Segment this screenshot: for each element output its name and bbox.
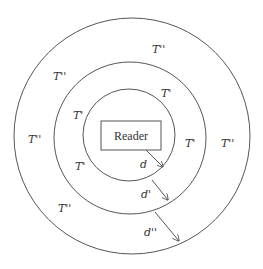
zone-label-t-prime-right: T' <box>185 137 195 150</box>
zone-label-t-double-prime-top: T'' <box>152 43 165 56</box>
reader-label: Reader <box>114 129 148 143</box>
zone-label-t-double-prime-right: T'' <box>221 137 234 150</box>
distance-label-d: d <box>140 158 147 171</box>
distance-arrow-d-double-prime <box>155 212 179 241</box>
distance-label-d-prime: d' <box>141 188 151 201</box>
distance-label-d-double-prime: d'' <box>144 226 157 239</box>
zone-label-t-prime-left-lower: T' <box>75 160 85 173</box>
distance-arrow-d <box>146 150 163 167</box>
reader-range-diagram: Reader d d' d'' T' T' T' T' T'' T'' T'' … <box>0 0 263 269</box>
zone-label-t-double-prime-left-upper: T'' <box>53 70 66 83</box>
zone-label-t-prime-left-upper: T' <box>73 109 83 122</box>
zone-label-t-double-prime-left-lower: T'' <box>58 202 71 215</box>
zone-label-t-double-prime-left: T'' <box>28 133 41 146</box>
distance-arrow-d-prime <box>152 180 168 200</box>
zone-label-t-prime-top: T' <box>161 87 171 100</box>
